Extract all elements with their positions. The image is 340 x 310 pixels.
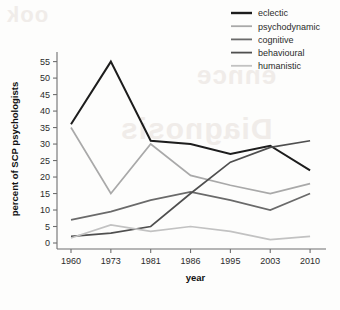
legend-label-behavioural: behavioural <box>258 48 305 58</box>
y-tick-label: 50 <box>40 73 50 83</box>
y-tick-label: 25 <box>40 156 50 166</box>
y-tick-label: 5 <box>45 222 50 232</box>
x-tick-label: 2010 <box>300 256 320 266</box>
y-tick-label: 45 <box>40 90 50 100</box>
x-tick-label: 1986 <box>181 256 201 266</box>
y-tick-label: 15 <box>40 189 50 199</box>
y-tick-label: 30 <box>40 139 50 149</box>
y-tick-label: 55 <box>40 57 50 67</box>
series-line-psychodynamic <box>71 128 310 194</box>
x-axis-title: year <box>186 272 206 283</box>
y-tick-label: 0 <box>45 238 50 248</box>
series-line-behavioural <box>71 141 310 237</box>
series-line-eclectic <box>71 62 310 171</box>
x-axis-ticks: 1960197319811986199520032010 <box>61 249 320 266</box>
x-tick-label: 1995 <box>220 256 240 266</box>
x-tick-label: 2003 <box>260 256 280 266</box>
series-line-humanistic <box>71 225 310 240</box>
y-tick-label: 35 <box>40 123 50 133</box>
y-tick-label: 10 <box>40 205 50 215</box>
series-line-cognitive <box>71 192 310 220</box>
x-tick-label: 1973 <box>101 256 121 266</box>
y-axis-title: percent of SCP psychologists <box>9 82 20 216</box>
y-tick-label: 20 <box>40 172 50 182</box>
line-chart: 0510152025303540455055 19601973198119861… <box>0 0 340 310</box>
x-tick-label: 1960 <box>61 256 81 266</box>
legend-label-cognitive: cognitive <box>258 35 294 45</box>
y-axis-ticks: 0510152025303540455055 <box>40 57 57 248</box>
legend-label-psychodynamic: psychodynamic <box>258 22 321 32</box>
y-tick-label: 40 <box>40 106 50 116</box>
chart-figure: Diagnosis ennce ook 05101520253035404550… <box>0 0 340 310</box>
x-tick-label: 1981 <box>141 256 161 266</box>
legend-label-humanistic: humanistic <box>258 61 302 71</box>
legend-label-eclectic: eclectic <box>258 8 289 18</box>
series-lines <box>71 62 310 240</box>
chart-legend: eclecticpsychodynamiccognitivebehavioura… <box>231 8 321 71</box>
